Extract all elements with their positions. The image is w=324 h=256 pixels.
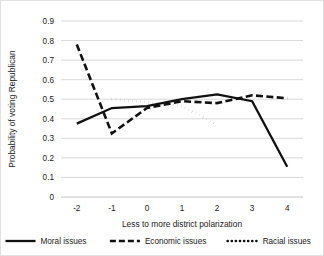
x-tick-label: 1 (180, 204, 185, 213)
y-tick-label: 0.2 (43, 154, 55, 163)
x-tick-label: 4 (285, 204, 290, 213)
x-tick-label: 3 (250, 204, 255, 213)
x-tick-label: -2 (73, 204, 81, 213)
y-tick-label: 0.3 (43, 134, 55, 143)
x-axis-title: Less to more district polarization (122, 219, 242, 229)
y-tick-label: 0.7 (43, 56, 55, 65)
y-axis-title: Probability of voting Republican (7, 50, 17, 168)
y-tick-label: 0 (49, 193, 54, 202)
y-tick-label: 0.4 (43, 115, 55, 124)
y-tick-label: 0.6 (43, 76, 55, 85)
series-line (77, 44, 287, 133)
gridlines (61, 21, 303, 197)
x-axis-tick-labels: -2-101234 (73, 204, 290, 213)
x-tick-label: 0 (145, 204, 150, 213)
legend-label: Racial issues (263, 237, 311, 246)
series-line (77, 94, 287, 166)
series-lines (77, 44, 287, 166)
legend-label: Moral issues (41, 237, 87, 246)
y-tick-label: 0.8 (43, 37, 55, 46)
chart-legend: Moral issuesEconomic issuesRacial issues (6, 237, 311, 246)
x-tick-label: -1 (108, 204, 116, 213)
y-tick-label: 0.1 (43, 173, 55, 182)
line-chart: 00.10.20.30.40.50.60.70.80.9 -2-101234 P… (1, 1, 324, 256)
legend-label: Economic issues (145, 237, 206, 246)
y-tick-label: 0.9 (43, 17, 55, 26)
x-tick-label: 2 (215, 204, 220, 213)
chart-figure: 00.10.20.30.40.50.60.70.80.9 -2-101234 P… (0, 0, 324, 256)
y-tick-label: 0.5 (43, 95, 55, 104)
y-axis-tick-labels: 00.10.20.30.40.50.60.70.80.9 (43, 17, 55, 202)
